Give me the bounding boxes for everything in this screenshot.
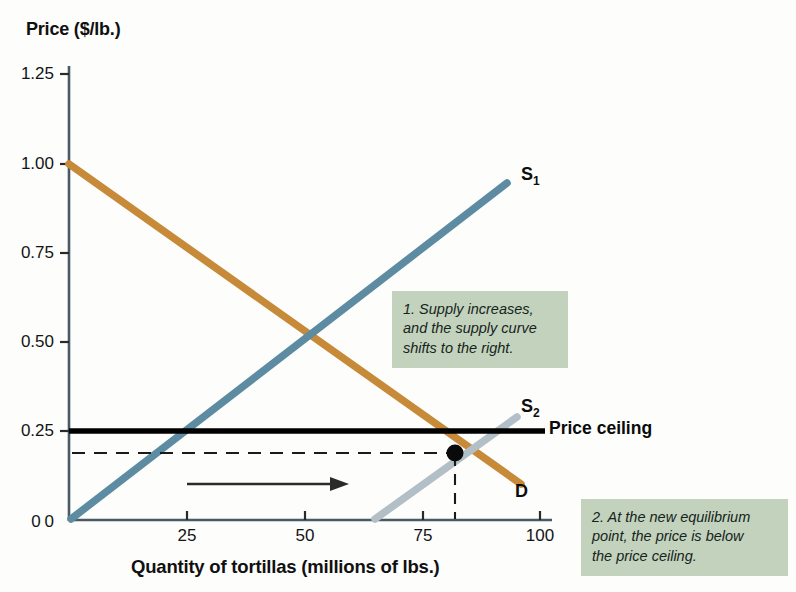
y-tick-label-025: 0.25 bbox=[2, 421, 54, 441]
supply-2-label: S2 bbox=[521, 396, 540, 420]
x-tick-label-25: 25 bbox=[160, 526, 214, 546]
y-tick-label-100: 1.00 bbox=[2, 154, 54, 174]
y-axis-title: Price ($/lb.) bbox=[26, 19, 120, 40]
callout-supply-increase: 1. Supply increases, and the supply curv… bbox=[392, 291, 568, 368]
supply-1-label: S1 bbox=[521, 164, 540, 188]
supply-2-label-subscript: 2 bbox=[533, 406, 540, 420]
x-axis-title: Quantity of tortillas (millions of lbs.) bbox=[131, 556, 440, 578]
supply-2-label-text: S bbox=[521, 396, 533, 416]
supply-1-label-text: S bbox=[521, 164, 533, 184]
demand-label: D bbox=[515, 481, 528, 502]
price-ceiling-label: Price ceiling bbox=[549, 418, 652, 439]
x-tick-label-100: 100 bbox=[513, 526, 567, 546]
supply-1-label-subscript: 1 bbox=[533, 174, 540, 188]
x-tick-label-75: 75 bbox=[396, 526, 450, 546]
equilibrium-point-marker bbox=[447, 445, 464, 462]
supply-demand-price-ceiling-figure: Price ($/lb.) Quantity of tortillas (mil… bbox=[0, 0, 796, 592]
x-tick-label-0: 0 bbox=[9, 512, 63, 532]
x-tick-label-50: 50 bbox=[278, 526, 332, 546]
callout-new-equilibrium: 2. At the new equilibrium point, the pri… bbox=[581, 499, 788, 576]
y-tick-label-125: 1.25 bbox=[2, 64, 54, 84]
shift-arrow-head bbox=[330, 477, 349, 491]
y-tick-label-075: 0.75 bbox=[2, 243, 54, 263]
y-tick-label-050: 0.50 bbox=[2, 332, 54, 352]
